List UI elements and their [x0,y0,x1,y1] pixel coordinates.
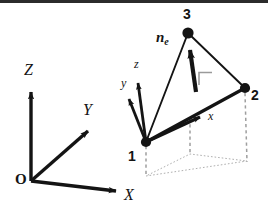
normal-vector-arrow [190,50,196,92]
node-label-1: 1 [128,149,136,163]
figure-root: O Z Y X z y x 1 2 3 ne [0,0,268,217]
normal-vector-label: ne [156,30,169,45]
right-angle-marker [199,73,212,86]
node-label-2: 2 [251,88,259,102]
normal-vector-group [190,50,212,92]
global-axes-group [31,92,116,191]
global-axis-y-label: Y [83,102,92,118]
local-axis-y-label: y [121,77,126,89]
local-axis-x-label: x [208,110,213,122]
global-axis-x-line [31,181,116,191]
node-label-3: 3 [183,7,191,21]
element-edge-2-3 [188,33,245,88]
global-axis-z-label: Z [24,62,33,78]
node-marker-1 [141,137,151,147]
node-marker-2 [240,83,250,93]
node-marker-3 [182,27,193,38]
projected-triangle [146,154,247,176]
global-axis-x-label: X [124,187,134,203]
drop-line-node-2 [245,93,247,162]
normal-vector-label-subscript: e [164,36,168,47]
global-axis-y-line [31,131,88,181]
local-axis-z-label: z [134,58,139,70]
global-origin-label: O [15,172,27,187]
figure-canvas [0,0,268,217]
